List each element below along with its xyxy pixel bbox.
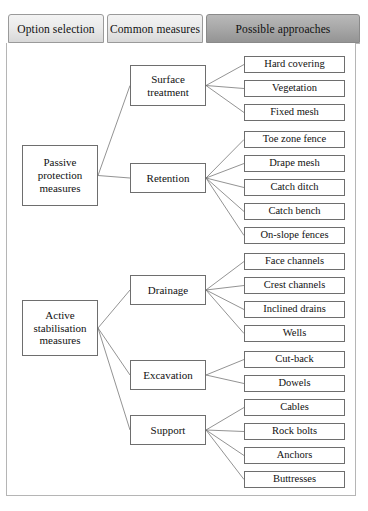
node-label: Wells: [283, 327, 307, 339]
node-leaf-8[interactable]: Face channels: [244, 253, 345, 270]
node-label: Dowels: [278, 377, 310, 389]
node-label: Fixed mesh: [270, 106, 319, 118]
node-label: Anchors: [277, 449, 313, 461]
node-leaf-16[interactable]: Anchors: [244, 447, 345, 464]
node-label: Retention: [147, 172, 190, 185]
tab-common-measures[interactable]: Common measures: [107, 14, 203, 43]
node-leaf-17[interactable]: Buttresses: [244, 471, 345, 488]
node-leaf-3[interactable]: Toe zone fence: [244, 131, 345, 148]
node-leaf-10[interactable]: Inclined drains: [244, 301, 345, 318]
node-leaf-6[interactable]: Catch bench: [244, 203, 345, 220]
node-leaf-0[interactable]: Hard covering: [244, 56, 345, 73]
node-label: Excavation: [143, 369, 192, 382]
node-label: On-slope fences: [261, 229, 329, 241]
node-label: Crest channels: [264, 279, 326, 291]
node-leaf-9[interactable]: Crest channels: [244, 277, 345, 294]
node-leaf-7[interactable]: On-slope fences: [244, 227, 345, 244]
node-leaf-14[interactable]: Cables: [244, 399, 345, 416]
tab-label: Common measures: [110, 23, 200, 35]
diagram-root: Option selection Common measures Possibl…: [0, 0, 368, 511]
tab-label: Possible approaches: [236, 23, 331, 35]
node-retention[interactable]: Retention: [130, 163, 206, 193]
node-passive[interactable]: Passive protection measures: [22, 145, 98, 206]
node-label: Toe zone fence: [263, 133, 326, 145]
node-label: Catch ditch: [270, 181, 318, 193]
node-leaf-5[interactable]: Catch ditch: [244, 179, 345, 196]
node-leaf-15[interactable]: Rock bolts: [244, 423, 345, 440]
node-leaf-1[interactable]: Vegetation: [244, 80, 345, 97]
node-label: Drainage: [148, 284, 188, 297]
node-leaf-11[interactable]: Wells: [244, 325, 345, 342]
node-label: Face channels: [265, 255, 324, 267]
node-surface[interactable]: Surface treatment: [130, 65, 206, 106]
tab-label: Option selection: [17, 23, 94, 35]
node-label: Buttresses: [273, 473, 316, 485]
node-label: Catch bench: [268, 205, 320, 217]
node-active[interactable]: Active stabilisation measures: [22, 300, 98, 356]
node-leaf-2[interactable]: Fixed mesh: [244, 104, 345, 121]
tab-possible-approaches[interactable]: Possible approaches: [206, 14, 360, 43]
node-label: Rock bolts: [272, 425, 317, 437]
node-label: Passive protection measures: [25, 156, 95, 195]
tab-option-selection[interactable]: Option selection: [8, 14, 104, 43]
node-label: Vegetation: [272, 82, 317, 94]
node-leaf-4[interactable]: Drape mesh: [244, 155, 345, 172]
node-label: Support: [151, 424, 186, 437]
node-label: Hard covering: [264, 58, 324, 70]
node-support[interactable]: Support: [130, 415, 206, 445]
node-drainage[interactable]: Drainage: [130, 275, 206, 305]
node-label: Cables: [280, 401, 309, 413]
node-label: Cut-back: [275, 353, 314, 365]
node-label: Active stabilisation measures: [25, 309, 95, 348]
node-label: Surface treatment: [133, 73, 203, 99]
node-label: Drape mesh: [269, 157, 319, 169]
node-leaf-12[interactable]: Cut-back: [244, 351, 345, 368]
node-leaf-13[interactable]: Dowels: [244, 375, 345, 392]
node-excavation[interactable]: Excavation: [130, 360, 206, 390]
node-label: Inclined drains: [263, 303, 326, 315]
